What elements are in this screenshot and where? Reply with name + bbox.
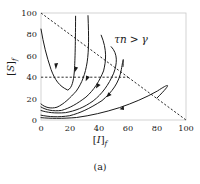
trajectory-group [41, 16, 168, 119]
annotation-relation: > [130, 33, 139, 45]
trajectory-curve-3 [41, 35, 106, 111]
trajectory-arrowhead-group [54, 63, 124, 110]
arrowhead-5 [106, 92, 111, 97]
arrowhead-2 [74, 67, 78, 73]
svg-text:τn>γ: τn>γ [114, 33, 148, 45]
lower-separatrix-line [128, 77, 186, 120]
x-tick-label-20: 20 [65, 123, 75, 133]
y-tick-label-60: 60 [27, 51, 37, 61]
arrowhead-3 [86, 76, 90, 82]
svg-text:[S]f: [S]f [5, 57, 19, 76]
x-axis-title: [I]f [93, 134, 109, 148]
figure-container: 100 80 60 40 20 0 0 20 40 60 80 100 [I]f… [0, 0, 200, 184]
y-tick-label-100: 100 [21, 8, 37, 18]
annotation-n-symbol: n [120, 33, 127, 45]
x-tick-label-60: 60 [123, 123, 133, 133]
x-axis-subscript: f [104, 139, 109, 148]
x-tick-label-40: 40 [94, 123, 104, 133]
x-axis-tick-labels: 0 20 40 60 80 100 [38, 123, 193, 133]
y-axis-tick-labels: 100 80 60 40 20 0 [21, 8, 37, 125]
annotation-tau-n-gamma: τn>γ [114, 33, 148, 45]
y-tick-label-0: 0 [32, 115, 37, 125]
annotation-gamma-symbol: γ [142, 33, 149, 45]
figure-caption: (a) [93, 161, 106, 172]
y-axis-subscript: f [10, 57, 19, 62]
y-axis-title: [S]f [5, 57, 19, 76]
arrowhead-1 [54, 63, 58, 69]
x-tick-label-80: 80 [152, 123, 162, 133]
x-tick-label-100: 100 [178, 123, 194, 133]
y-tick-label-80: 80 [27, 29, 37, 39]
y-tick-label-20: 20 [27, 94, 37, 104]
x-tick-label-0: 0 [38, 123, 43, 133]
svg-text:[I]f: [I]f [93, 134, 109, 148]
y-tick-label-40: 40 [27, 72, 37, 82]
trajectory-curve-1 [41, 16, 76, 90]
phase-portrait-chart: 100 80 60 40 20 0 0 20 40 60 80 100 [I]f… [0, 0, 200, 184]
